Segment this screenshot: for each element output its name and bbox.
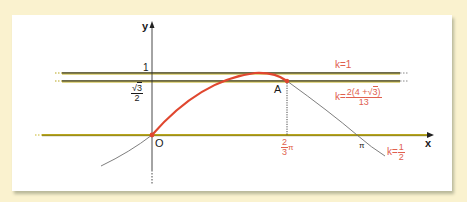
- x-tick-two-thirds-pi: 23π: [281, 138, 294, 157]
- label-k-1: k=1: [335, 60, 351, 70]
- x-axis: [35, 132, 434, 138]
- line-k-1: [55, 73, 408, 74]
- label-k-sqrt3-expr: k=2(4 +√3)13: [335, 88, 382, 107]
- label-k-half: k=12: [387, 143, 405, 162]
- point-a-label: A: [274, 84, 281, 95]
- origin-label: O: [155, 138, 164, 149]
- y-tick-sqrt3-over-2: √32: [131, 84, 143, 103]
- x-axis-label: x: [425, 138, 431, 149]
- gray-curve: [101, 135, 152, 166]
- y-axis: [150, 21, 155, 184]
- line-k-sqrt3: [55, 81, 408, 82]
- origin-point: [150, 133, 155, 138]
- y-arrow-icon: [150, 21, 155, 28]
- x-tick-pi: π: [359, 142, 365, 150]
- point-a: [285, 79, 289, 83]
- y-axis-label: y: [142, 21, 148, 32]
- graph-svg: [0, 0, 467, 202]
- y-tick-1: 1: [143, 63, 149, 73]
